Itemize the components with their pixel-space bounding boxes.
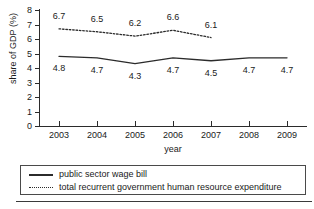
x-tick-mark bbox=[173, 121, 174, 126]
y-tick-mark bbox=[35, 112, 39, 113]
line-total-recurrent-expenditure bbox=[59, 29, 211, 38]
x-tick-label: 2008 bbox=[229, 130, 269, 140]
y-tick-mark bbox=[35, 97, 39, 98]
y-tick-mark bbox=[35, 54, 39, 55]
x-tick-mark bbox=[135, 121, 136, 126]
x-tick-mark bbox=[97, 121, 98, 126]
legend-swatch-dotted-icon bbox=[29, 187, 53, 190]
y-tick-mark bbox=[35, 25, 39, 26]
legend-swatch-solid-icon bbox=[29, 174, 53, 176]
y-tick-mark bbox=[35, 68, 39, 69]
chart-figure: 012345678 2003200420052006200720082009 s… bbox=[0, 0, 314, 209]
y-tick-label: 1 bbox=[12, 108, 32, 117]
legend-label-0: public sector wage bill bbox=[59, 169, 147, 180]
data-label: 4.7 bbox=[158, 66, 188, 75]
data-label: 4.7 bbox=[234, 66, 264, 75]
legend-item-total-recurrent-expenditure: total recurrent government human resourc… bbox=[21, 181, 305, 194]
data-label: 4.7 bbox=[82, 66, 112, 75]
x-tick-mark bbox=[211, 121, 212, 126]
x-tick-mark bbox=[287, 121, 288, 126]
x-tick-label: 2004 bbox=[77, 130, 117, 140]
data-label: 6.2 bbox=[120, 19, 150, 28]
y-tick-mark bbox=[35, 83, 39, 84]
data-label: 6.5 bbox=[82, 15, 112, 24]
y-axis-title: share of GDP (%) bbox=[9, 4, 18, 94]
chart-legend: public sector wage bill total recurrent … bbox=[20, 165, 306, 195]
y-tick-label: 2 bbox=[12, 93, 32, 102]
data-label: 4.3 bbox=[120, 72, 150, 81]
x-tick-label: 2007 bbox=[191, 130, 231, 140]
legend-label-1: total recurrent government human resourc… bbox=[59, 182, 282, 193]
data-label: 6.1 bbox=[196, 21, 226, 30]
y-tick-label: 0 bbox=[12, 122, 32, 131]
x-tick-label: 2005 bbox=[115, 130, 155, 140]
y-tick-mark bbox=[35, 126, 39, 127]
legend-item-public-sector-wage-bill: public sector wage bill bbox=[21, 168, 305, 181]
data-label: 4.7 bbox=[272, 66, 302, 75]
line-public-sector-wage-bill bbox=[59, 56, 287, 63]
data-label: 4.8 bbox=[44, 64, 74, 73]
data-label: 4.5 bbox=[196, 69, 226, 78]
x-tick-label: 2009 bbox=[267, 130, 307, 140]
x-axis-title: year bbox=[40, 144, 306, 154]
y-tick-mark bbox=[35, 39, 39, 40]
x-tick-mark bbox=[59, 121, 60, 126]
bottom-divider bbox=[16, 201, 312, 202]
x-tick-label: 2006 bbox=[153, 130, 193, 140]
x-axis-line bbox=[39, 126, 307, 127]
y-tick-mark bbox=[35, 10, 39, 11]
x-tick-label: 2003 bbox=[39, 130, 79, 140]
y-axis-line bbox=[39, 9, 40, 127]
data-label: 6.6 bbox=[158, 13, 188, 22]
data-label: 6.7 bbox=[44, 12, 74, 21]
x-tick-mark bbox=[249, 121, 250, 126]
